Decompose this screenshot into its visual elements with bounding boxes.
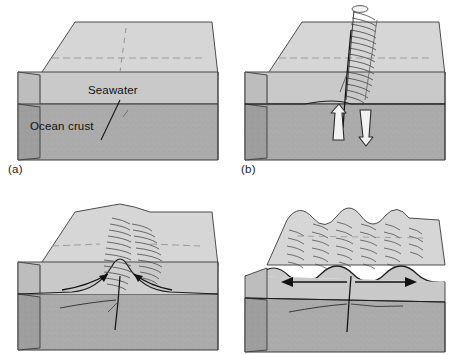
vent-cap — [352, 6, 368, 13]
panel-b: (b) — [227, 0, 457, 190]
panel-b-label: (b) — [241, 163, 256, 175]
panel-d — [227, 190, 457, 355]
crust-left-face — [245, 104, 267, 160]
block-top-face-corrugated — [267, 208, 445, 265]
panel-c-stage — [0, 190, 230, 355]
seawater-left-face — [245, 268, 267, 300]
crust-left-face — [18, 104, 40, 160]
panel-a: Seawater Ocean crust (a) — [0, 0, 230, 190]
block-top-face — [40, 22, 218, 75]
panel-d-stage — [227, 190, 457, 355]
ocean-crust-label: Ocean crust — [30, 120, 94, 132]
panel-c — [0, 190, 230, 355]
panel-b-graphic — [227, 0, 457, 190]
seawater-label: Seawater — [88, 84, 138, 96]
panel-d-graphic — [227, 190, 457, 355]
crust-left-face — [245, 298, 267, 352]
crust-left-face — [18, 294, 40, 350]
seawater-left-face — [245, 72, 267, 107]
panel-c-graphic — [0, 190, 230, 355]
panel-b-stage — [227, 0, 457, 190]
seawater-left-face — [18, 72, 40, 107]
crust-front-face — [18, 104, 218, 160]
seawater-left-face — [18, 262, 40, 297]
panel-a-stage: Seawater Ocean crust — [0, 0, 230, 190]
block-top-face — [40, 204, 218, 265]
panel-a-label: (a) — [8, 163, 23, 175]
crust-front-face — [245, 298, 445, 352]
